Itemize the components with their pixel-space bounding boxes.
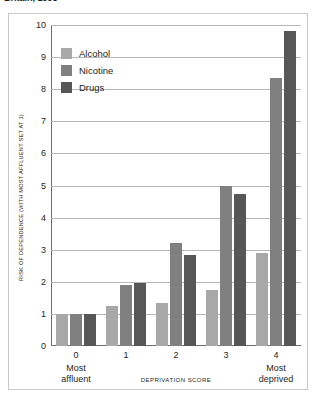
legend-item-drugs: Drugs — [61, 79, 113, 96]
y-axis-tick-label: 1 — [41, 309, 46, 318]
legend-label: Drugs — [79, 82, 104, 93]
cropped-caption: Britain, 1998 — [4, 0, 124, 3]
bar-nicotine-4 — [270, 78, 283, 346]
y-axis-tick-label: 4 — [41, 213, 46, 222]
square-swatch-icon — [61, 65, 72, 76]
y-axis-tick-label: 9 — [41, 53, 46, 62]
bar-drugs-2 — [184, 255, 197, 346]
legend: Alcohol Nicotine Drugs — [61, 45, 113, 96]
y-axis-tick-label: 7 — [41, 117, 46, 126]
x-axis-tick-note: Mostdeprived — [259, 363, 294, 385]
bar-drugs-1 — [134, 283, 147, 346]
y-axis-tick-label: 0 — [41, 342, 46, 351]
x-axis-tick-value: 0 — [73, 350, 78, 360]
x-axis-tick-note: Mostaffluent — [61, 363, 90, 385]
legend-label: Nicotine — [79, 65, 113, 76]
gridline — [51, 153, 301, 154]
bar-alcohol-2 — [156, 303, 169, 346]
legend-label: Alcohol — [79, 48, 110, 59]
gridline — [51, 121, 301, 122]
square-swatch-icon — [61, 82, 72, 93]
square-swatch-icon — [61, 48, 72, 59]
y-axis-tick-label: 6 — [41, 149, 46, 158]
legend-item-alcohol: Alcohol — [61, 45, 113, 62]
x-axis-tick-3: 3 — [223, 350, 228, 361]
chart-panel: 012345678910 RISK OF DEPENDENCE (WITH MO… — [8, 13, 308, 390]
legend-item-nicotine: Nicotine — [61, 62, 113, 79]
bar-nicotine-0 — [70, 314, 83, 346]
y-axis-tick-label: 8 — [41, 85, 46, 94]
bar-alcohol-4 — [256, 253, 269, 346]
bar-drugs-3 — [234, 194, 247, 346]
gridline — [51, 218, 301, 219]
bar-alcohol-1 — [106, 306, 119, 346]
x-axis-tick-value: 3 — [223, 350, 228, 360]
gridline — [51, 186, 301, 187]
y-axis-tick-label: 5 — [41, 181, 46, 190]
x-axis-tick-value: 1 — [123, 350, 128, 360]
bar-alcohol-3 — [206, 290, 219, 346]
x-axis-tick-value: 4 — [273, 350, 278, 360]
caption-text: Britain, 1998 — [4, 0, 124, 3]
x-axis-tick-value: 2 — [173, 350, 178, 360]
y-axis-tick-label: 3 — [41, 245, 46, 254]
y-axis-tick-label: 10 — [36, 21, 46, 30]
x-axis-tick-4: 4Mostdeprived — [259, 350, 294, 385]
x-axis-tick-2: 2 — [173, 350, 178, 361]
bar-nicotine-3 — [220, 186, 233, 347]
y-axis-tick-label: 2 — [41, 277, 46, 286]
x-axis-tick-0: 0Mostaffluent — [61, 350, 90, 385]
bar-nicotine-2 — [170, 243, 183, 346]
y-axis-title: RISK OF DEPENDENCE (WITH MOST AFFLUENT S… — [15, 37, 27, 358]
x-axis-tick-1: 1 — [123, 350, 128, 361]
gridline — [51, 25, 301, 26]
bar-drugs-0 — [84, 314, 97, 346]
bar-nicotine-1 — [120, 285, 133, 346]
bar-drugs-4 — [284, 31, 297, 346]
bar-alcohol-0 — [56, 314, 69, 346]
